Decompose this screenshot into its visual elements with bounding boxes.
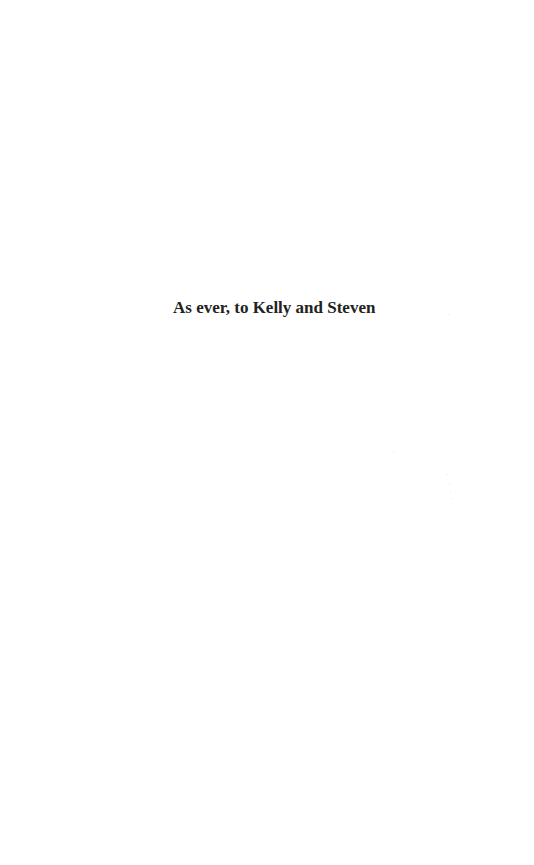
scan-artifact — [449, 483, 450, 484]
scan-artifact — [448, 314, 449, 315]
scan-artifact — [447, 474, 448, 475]
book-page: As ever, to Kelly and Steven — [0, 0, 534, 865]
scan-artifact — [450, 492, 451, 493]
dedication-text: As ever, to Kelly and Steven — [173, 297, 375, 319]
scan-artifact — [451, 498, 452, 499]
scan-artifact — [393, 451, 394, 452]
